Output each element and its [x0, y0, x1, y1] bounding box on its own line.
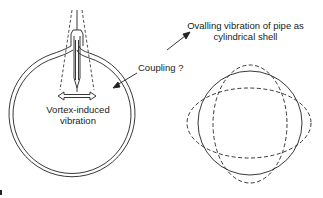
vortex-label: Vortex-induced vibration — [36, 104, 120, 126]
vortex-label-line2: vibration — [36, 115, 120, 126]
horizontal-oval-mode — [187, 88, 311, 158]
vortex-label-line1: Vortex-induced — [36, 104, 120, 115]
ovalling-label-line1: Ovalling vibration of pipe as — [168, 20, 323, 31]
coupling-label: Coupling ? — [138, 62, 183, 73]
vertical-oval-mode — [213, 65, 287, 183]
ovalling-label-line2: cylindrical shell — [168, 31, 323, 42]
vibration-double-arrow-icon — [58, 92, 96, 100]
ovalling-label: Ovalling vibration of pipe as cylindrica… — [168, 20, 323, 42]
edge-mark — [0, 190, 2, 195]
arrow-head-icon — [113, 82, 120, 88]
ovalling-shell — [187, 65, 311, 183]
undeformed-circle — [198, 71, 302, 175]
